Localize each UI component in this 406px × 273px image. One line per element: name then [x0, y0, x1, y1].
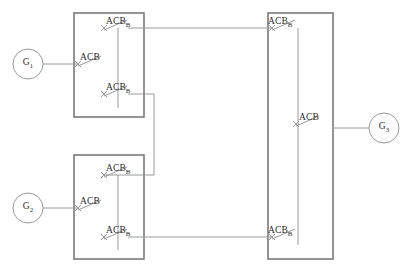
breaker-symbol-group	[75, 20, 319, 240]
acb-b-lower-feeder-label: ACBB	[106, 226, 130, 238]
acb-g1-incomer-label: ACB	[80, 53, 100, 65]
generator-group	[13, 49, 399, 223]
single-line-diagram: G1 G2 G3 ACB ACBB ACBB ACB ACBB ACBB ACB…	[0, 0, 406, 273]
bus-group	[118, 28, 298, 250]
acb-b-upper-feeder-label: ACBB	[106, 17, 130, 29]
generator-g2-label: G2	[23, 202, 33, 214]
enclosure-group	[74, 13, 333, 259]
acb-b-bus-upper-label: ACBB	[268, 17, 292, 29]
acb-b-upper-tie-label: ACBB	[106, 83, 130, 95]
acb-g2-incomer-label: ACB	[80, 197, 100, 209]
diagram-vector-layer	[0, 0, 406, 273]
switchgear-right-bus	[268, 13, 333, 259]
generator-g3-label: G3	[379, 122, 389, 134]
acb-b-lower-tie-label: ACBB	[106, 164, 130, 176]
acb-g3-feeder-label: ACB	[299, 113, 319, 125]
acb-b-bus-lower-label: ACBB	[268, 226, 292, 238]
generator-g1-label: G1	[23, 58, 33, 70]
